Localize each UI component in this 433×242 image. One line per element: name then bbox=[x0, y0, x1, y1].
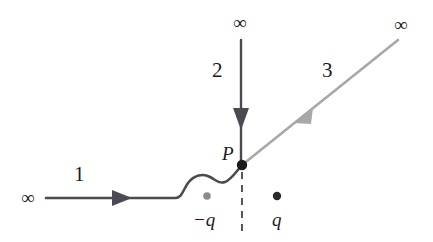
charge-negative-dot bbox=[203, 192, 211, 200]
path-2-group bbox=[233, 40, 249, 166]
diagram-canvas bbox=[0, 0, 433, 242]
path-3-group bbox=[242, 40, 398, 165]
charge-negative-label: −q bbox=[193, 210, 215, 229]
path-3-label: 3 bbox=[322, 60, 333, 81]
point-P-label: P bbox=[222, 144, 234, 163]
contour-path-diagram: ∞ 1 ∞ 2 ∞ 3 P −q q bbox=[0, 0, 433, 242]
charge-positive-dot bbox=[273, 192, 281, 200]
infinity-label-right: ∞ bbox=[394, 15, 408, 34]
path-1-label: 1 bbox=[74, 164, 85, 185]
path-3-arrowhead-icon bbox=[294, 108, 313, 124]
path-1-arrowhead-icon bbox=[112, 190, 132, 206]
path-3-line bbox=[242, 40, 398, 165]
charge-positive-label: q bbox=[272, 210, 282, 229]
infinity-label-top: ∞ bbox=[233, 13, 247, 32]
path-2-arrowhead-icon bbox=[233, 108, 249, 130]
path-2-label: 2 bbox=[212, 60, 223, 81]
infinity-label-left: ∞ bbox=[21, 188, 35, 207]
point-P-dot bbox=[237, 160, 247, 170]
